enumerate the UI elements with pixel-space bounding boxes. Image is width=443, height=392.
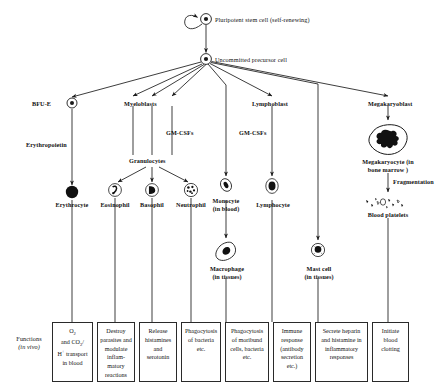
function-box-mast-cell: Secrete heparin and histamine in inflamm… bbox=[315, 322, 368, 382]
edge-to-megakaryoblast bbox=[212, 62, 389, 97]
edge-granulocytes-neutrophil bbox=[159, 167, 188, 182]
neutrophil-icon bbox=[184, 183, 197, 196]
function-box-neutrophil: Phagocytosis of bacteria etc. bbox=[181, 322, 221, 382]
label-megakaryoblast: Megakaryoblast bbox=[368, 100, 412, 108]
function-box-eosinophil: Destroy parasites and modulate inflam- m… bbox=[97, 322, 135, 382]
label-megakaryocyte-line2: bone marrow ) bbox=[352, 166, 424, 174]
label-cell-mast-cell: Mast cell bbox=[295, 265, 343, 273]
label-functions-line1: Functions bbox=[8, 335, 50, 343]
function-box-lymphocyte: Immune response (antibody secretion etc.… bbox=[273, 322, 311, 382]
label-functions-line2: (in vivo) bbox=[8, 343, 50, 351]
label-cell-erythrocyte: Erythrocyte bbox=[46, 201, 98, 209]
function-box-macrophage: Phagocytosis of moribund cells, bacteria… bbox=[225, 322, 269, 382]
edge-to-myeloblast-1 bbox=[133, 64, 202, 96]
edge-to-mastcell-branch bbox=[211, 63, 318, 105]
label-cell-macrophage-location: (in tissues) bbox=[202, 273, 252, 281]
label-pluripotent-stem-cell: Pluripotent stem cell (self-renewing) bbox=[215, 16, 310, 24]
function-box-erythrocyte: O2 and CO2/ H+ transport in blood bbox=[52, 322, 93, 382]
label-granulocytes: Granulocytes bbox=[129, 157, 166, 165]
label-fragmentation: Fragmentation bbox=[393, 178, 434, 186]
label-gm-csfs-right: GM-CSFs bbox=[239, 129, 267, 137]
label-myeloblasts: Myeloblasts bbox=[124, 100, 157, 108]
label-cell-monocyte-location: (in blood) bbox=[204, 205, 248, 213]
label-bfu-e: BFU-E bbox=[32, 100, 51, 108]
edge-to-myeloblast-3 bbox=[172, 65, 206, 97]
function-box-basophil: Release histamines and serotonin bbox=[139, 322, 177, 382]
label-cell-mast-cell-location: (in tissues) bbox=[295, 273, 343, 281]
label-blood-platelets: Blood platelets bbox=[356, 211, 420, 219]
label-cell-monocyte: Monocyte bbox=[204, 197, 248, 205]
label-cell-macrophage: Macrophage bbox=[202, 265, 252, 273]
label-lymphoblast: Lymphoblast bbox=[252, 100, 288, 108]
blood-platelets-icon bbox=[366, 198, 403, 208]
self-renew-loop bbox=[185, 15, 202, 28]
edge-to-myeloblast-2 bbox=[152, 65, 204, 97]
label-cell-lymphocyte: Lymphocyte bbox=[250, 201, 296, 209]
label-uncommitted-precursor-cell: Uncommitted precursor cell bbox=[215, 56, 287, 64]
erythrocyte-icon bbox=[66, 186, 78, 198]
label-erythropoietin: Erythropoietin bbox=[26, 141, 67, 149]
label-cell-basophil: Basophil bbox=[131, 201, 173, 209]
hematopoiesis-diagram: Pluripotent stem cell (self-renewing) Un… bbox=[0, 0, 443, 392]
function-box-platelets: Initiate blood clotting bbox=[372, 322, 409, 382]
edge-granulocytes-eosinophil bbox=[118, 167, 146, 182]
label-megakaryocyte-line1: Megakaryocyte (in bbox=[352, 158, 424, 166]
edge-to-bfue bbox=[72, 62, 201, 97]
label-gm-csfs-left: GM-CSFs bbox=[166, 129, 194, 137]
